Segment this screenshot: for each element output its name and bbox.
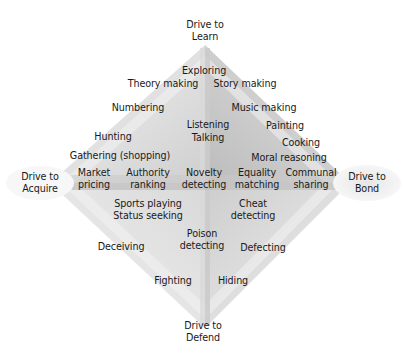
label-cheat-detecting: Cheat detecting [231, 198, 276, 221]
label-cooking: Cooking [282, 137, 320, 149]
label-fighting: Fighting [154, 275, 191, 287]
label-authority-ranking: Authority ranking [126, 167, 170, 190]
label-painting: Painting [266, 120, 304, 132]
label-poison-detecting: Poison detecting [180, 228, 225, 251]
label-novelty-detecting: Novelty detecting [182, 167, 227, 190]
pole-right-line2: Bond [348, 183, 385, 195]
label-sports-playing: Sports playing [114, 198, 182, 210]
label-deceiving: Deceiving [98, 241, 145, 253]
pole-right-bond: Drive to Bond [348, 171, 385, 194]
label-hunting: Hunting [94, 131, 131, 143]
label-status-seeking: Status seeking [113, 210, 182, 222]
label-hiding: Hiding [218, 275, 248, 287]
pole-top-learn: Drive to Learn [186, 19, 223, 42]
label-moral-reasoning: Moral reasoning [251, 152, 326, 164]
label-exploring: Exploring [182, 65, 226, 77]
pole-bottom-defend: Drive to Defend [184, 320, 221, 343]
label-gathering-shopping: Gathering (shopping) [70, 150, 170, 162]
label-equality-matching: Equality matching [235, 167, 279, 190]
pole-bottom-line2: Defend [184, 332, 221, 344]
pole-right-line1: Drive to [348, 171, 385, 183]
drive-diamond-diagram: Drive to Learn Drive to Acquire Drive to… [0, 0, 403, 363]
label-talking: Talking [192, 132, 225, 144]
pole-top-line1: Drive to [186, 19, 223, 31]
label-defecting: Defecting [240, 242, 286, 254]
pole-left-line1: Drive to [21, 171, 58, 183]
pole-bottom-line1: Drive to [184, 320, 221, 332]
label-communal-sharing: Communal sharing [285, 167, 336, 190]
pole-top-line2: Learn [186, 31, 223, 43]
label-market-pricing: Market pricing [78, 167, 110, 190]
label-listening: Listening [187, 119, 230, 131]
label-story-making: Story making [214, 78, 277, 90]
label-theory-making: Theory making [128, 78, 199, 90]
pole-left-line2: Acquire [21, 183, 58, 195]
pole-left-acquire: Drive to Acquire [21, 171, 58, 194]
label-numbering: Numbering [112, 102, 164, 114]
label-music-making: Music making [232, 102, 297, 114]
